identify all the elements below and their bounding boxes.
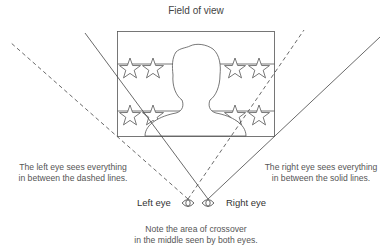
star-icon — [143, 58, 164, 78]
right-eye-label: Right eye — [226, 197, 266, 208]
silhouette-icon — [145, 44, 246, 136]
left-eye-label: Left eye — [137, 197, 171, 208]
star-icon — [120, 58, 141, 78]
star-icon — [249, 58, 270, 78]
left-eye-icon — [182, 200, 194, 207]
field-of-view-diagram — [0, 0, 392, 250]
right-eye-icon — [202, 200, 214, 207]
crossover-note: Note the area of crossover in the middle… — [116, 224, 276, 246]
star-icon — [225, 58, 246, 78]
star-icon — [120, 105, 141, 125]
star-icon — [249, 105, 270, 125]
right-caption: The right eye sees everything in between… — [256, 162, 386, 184]
left-caption: The left eye sees everything in between … — [8, 162, 138, 184]
